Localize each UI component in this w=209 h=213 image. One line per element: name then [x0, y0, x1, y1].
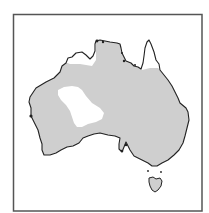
island-dot: [29, 114, 32, 117]
island-dot: [134, 64, 136, 66]
island-dot: [125, 144, 128, 147]
island-dot: [160, 171, 162, 173]
island-dot: [123, 60, 125, 62]
australia-range-map: [0, 0, 209, 213]
map-container: [0, 0, 209, 213]
island-dot: [96, 40, 99, 43]
island-dot: [102, 41, 104, 43]
island-dot: [121, 150, 124, 153]
island-dot: [147, 170, 149, 172]
island-dot: [121, 52, 123, 54]
